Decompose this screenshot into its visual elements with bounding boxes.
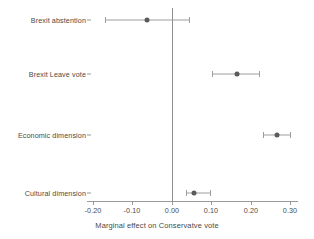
category-label-brexit-leave-vote: Brexit Leave vote [29, 70, 86, 79]
error-bar-cap-high-brexit-leave-vote [259, 71, 260, 77]
y-tick-brexit-leave-vote [87, 74, 91, 75]
data-point-cultural-dimension [192, 191, 197, 196]
x-tick-neg-0-20 [93, 201, 94, 205]
x-tick-neg-0-10 [132, 201, 133, 205]
error-bar-cap-high-cultural-dimension [210, 190, 211, 196]
x-tick-label-neg-0-10: -0.10 [124, 206, 141, 215]
x-tick-label-0-10: 0.10 [204, 206, 218, 215]
category-label-economic-dimension: Economic dimension [18, 131, 86, 140]
x-axis-line [87, 201, 298, 202]
error-bar-cap-low-brexit-leave-vote [212, 71, 213, 77]
y-tick-economic-dimension [87, 135, 91, 136]
x-tick-0-20 [251, 201, 252, 205]
error-bar-cap-high-economic-dimension [290, 132, 291, 138]
marginal-effects-plot: Brexit abstention Brexit Leave vote Econ… [0, 0, 314, 239]
data-point-brexit-leave-vote [235, 72, 240, 77]
error-bar-cap-low-economic-dimension [263, 132, 264, 138]
plot-area: Brexit abstention Brexit Leave vote Econ… [0, 0, 314, 239]
error-bar-cap-low-brexit-abstention [105, 17, 106, 23]
x-tick-0-10 [211, 201, 212, 205]
x-tick-label-neg-0-20: -0.20 [85, 206, 102, 215]
zero-reference-line [172, 8, 173, 201]
y-tick-brexit-abstention [87, 20, 91, 21]
data-point-economic-dimension [275, 133, 280, 138]
category-label-brexit-abstention: Brexit abstention [31, 16, 86, 25]
error-bar-cap-high-brexit-abstention [189, 17, 190, 23]
x-tick-label-0-30: 0.30 [283, 206, 297, 215]
x-tick-label-0-20: 0.20 [244, 206, 258, 215]
x-tick-label-0-00: 0.00 [165, 206, 179, 215]
category-label-cultural-dimension: Cultural dimension [25, 189, 86, 198]
y-tick-cultural-dimension [87, 193, 91, 194]
x-tick-0-30 [290, 201, 291, 205]
x-axis-title: Marginal effect on Conservatve vote [0, 221, 314, 230]
data-point-brexit-abstention [145, 18, 150, 23]
error-bar-cap-low-cultural-dimension [186, 190, 187, 196]
error-bar-cultural-dimension [186, 193, 210, 194]
x-tick-0-00 [172, 201, 173, 205]
